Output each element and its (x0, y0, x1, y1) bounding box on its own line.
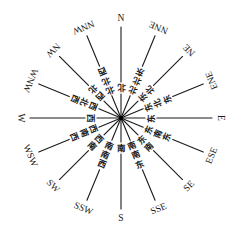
cn-label-sse-char-2: 东 (134, 158, 146, 171)
abbr-label-ene: ENE (203, 70, 219, 91)
cn-label-nnw-char-2: 西 (96, 65, 108, 78)
abbr-label-sse: SSE (149, 201, 168, 217)
spoke-outer-nw (59, 56, 88, 85)
spoke-inner-sw (104, 118, 121, 135)
cn-label-n-char-0: 北 (117, 83, 126, 93)
abbr-label-s: S (118, 213, 123, 223)
cn-label-w-char-0: 西 (86, 114, 96, 123)
spoke-outer-ne (154, 56, 183, 85)
cn-label-ene-char-2: 东 (161, 93, 174, 105)
cn-label-wsw-char-2: 西 (68, 131, 81, 143)
cn-label-wnw-char-2: 西 (68, 93, 81, 105)
abbr-label-w: W (16, 114, 26, 123)
spoke-outer-wnw (39, 84, 69, 97)
spoke-outer-ese (173, 139, 203, 152)
spoke-inner-se (121, 118, 138, 135)
cn-label-s-char-0: 南 (117, 143, 126, 153)
cn-label-ese-char-2: 东 (161, 131, 174, 143)
spoke-outer-ssw (87, 170, 100, 200)
abbr-label-e: E (216, 115, 226, 121)
abbr-label-wnw: WNW (21, 67, 40, 94)
spoke-outer-ene (173, 84, 203, 97)
abbr-label-se: SE (181, 178, 196, 193)
abbr-label-wsw: WSW (21, 143, 39, 168)
abbr-label-n: N (118, 13, 125, 23)
compass-center-hub (119, 116, 123, 120)
abbr-label-nnw: NNW (71, 18, 96, 36)
spoke-outer-nnw (87, 36, 100, 66)
abbr-label-ne: NE (181, 42, 197, 58)
spoke-outer-wsw (39, 139, 69, 152)
spoke-outer-nne (142, 36, 155, 66)
spoke-inner-nw (104, 101, 121, 118)
spoke-outer-sse (142, 170, 155, 200)
spoke-outer-se (154, 151, 183, 180)
abbr-label-nne: NNE (147, 19, 169, 36)
cn-label-e-char-0: 东 (146, 114, 156, 123)
cn-label-nne-char-2: 东 (134, 65, 146, 78)
cn-label-ssw-char-2: 西 (96, 158, 108, 171)
spoke-outer-sw (59, 151, 88, 180)
abbr-label-ese: ESE (204, 146, 220, 166)
abbr-label-ssw: SSW (73, 200, 95, 217)
compass-rose: 北北北东东北东北东东东南东东南南南东南南南西西南西南西西西北西西北北北西 NNN… (0, 0, 241, 237)
spoke-inner-ne (121, 101, 138, 118)
